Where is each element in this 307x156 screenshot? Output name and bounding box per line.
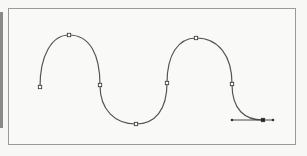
bezier-path[interactable] xyxy=(40,35,263,124)
illustration-canvas xyxy=(0,0,307,156)
anchor-point[interactable] xyxy=(38,85,41,88)
anchor-points[interactable] xyxy=(38,33,264,125)
anchor-point[interactable] xyxy=(165,81,168,84)
anchor-point[interactable] xyxy=(230,82,233,85)
bezier-path-layer xyxy=(0,0,307,156)
anchor-point[interactable] xyxy=(194,36,197,39)
direction-point-out[interactable] xyxy=(272,119,275,122)
anchor-point[interactable] xyxy=(98,83,101,86)
anchor-point[interactable] xyxy=(67,33,70,36)
anchor-point[interactable] xyxy=(134,122,137,125)
selected-anchor-point[interactable] xyxy=(261,118,264,121)
direction-point-in[interactable] xyxy=(231,119,234,122)
